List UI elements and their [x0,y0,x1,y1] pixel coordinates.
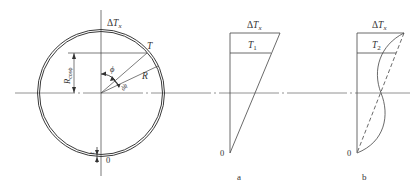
panel-b-delta-tx-label: ΔTx [372,20,387,32]
panel-b-origin-label: 0 [347,148,351,158]
thickness-dimension [95,147,99,163]
panel-a-caption: a [237,172,241,182]
panel-a-T1-label: T1 [248,40,257,52]
rcos-label: Rcosϕ [62,68,73,85]
thickness-t-label: t [88,151,96,154]
circle-delta-tx-label: ΔTx [107,18,122,30]
diagram-canvas: ΔTx T R ϕ dϕ Rcosϕ t 0 ΔTx T1 0 a ΔTx T2… [0,0,420,188]
angle-dphi-label: dϕ [119,82,129,92]
angle-phi-label: ϕ [110,64,115,74]
point-T-label: T [147,41,153,51]
panel-b-T2-label: T2 [372,40,381,52]
circle-origin-label: 0 [106,155,110,165]
radius-R-label: R [141,71,148,81]
panel-a-delta-tx-label: ΔTx [247,20,262,32]
panel-b-caption: b [362,172,367,182]
panel-a-origin-label: 0 [220,148,224,158]
